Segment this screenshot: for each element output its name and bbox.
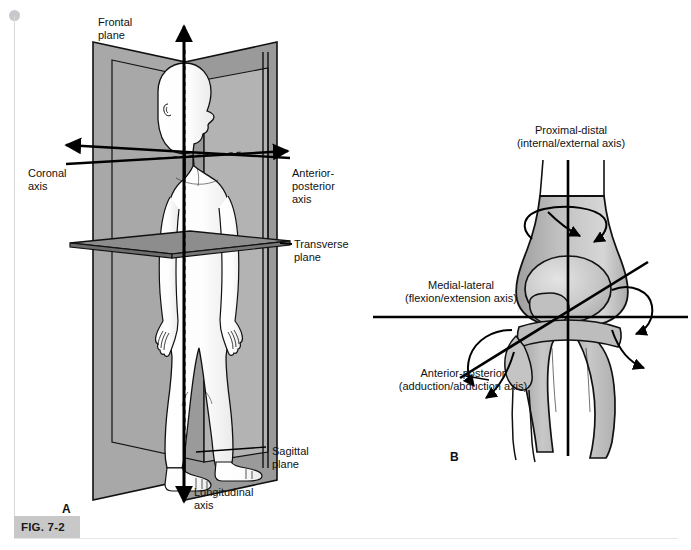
figure-page: Frontal plane Coronal axis Anterior- pos… (0, 0, 691, 550)
figure-caption-chip: FIG. 7-2 (14, 516, 80, 538)
label-anterior-posterior-knee-axis: Anterior-posterior (adduction/abduction … (378, 367, 548, 393)
label-anterior-posterior-axis: Anterior- posterior axis (292, 167, 335, 206)
panel-b-graphic (373, 160, 688, 462)
label-frontal-plane: Frontal plane (98, 16, 132, 42)
label-coronal-axis: Coronal axis (28, 167, 67, 193)
label-longitudinal-axis: Longitudinal axis (194, 486, 253, 512)
transverse-plane-leader (280, 243, 292, 244)
label-proximal-distal-axis: Proximal-distal (internal/external axis) (490, 124, 652, 150)
label-transverse-plane: Transverse plane (294, 238, 349, 264)
label-medial-lateral-axis: Medial-lateral (flexion/extension axis) (386, 279, 536, 305)
panel-a-graphic (66, 26, 292, 502)
panel-b-letter: B (450, 450, 459, 464)
figure-illustration (0, 0, 691, 550)
figure-caption-text: FIG. 7-2 (14, 521, 65, 533)
label-sagittal-plane: Sagittal plane (272, 445, 309, 471)
panel-a-letter: A (62, 502, 71, 516)
